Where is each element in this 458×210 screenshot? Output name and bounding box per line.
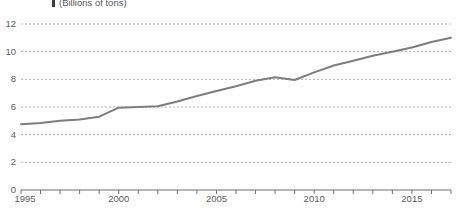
chart-plot-area bbox=[0, 0, 458, 210]
gridlines-group bbox=[21, 24, 451, 162]
y-axis-label-10: 10 bbox=[0, 47, 16, 57]
y-axis-label-12: 12 bbox=[0, 19, 16, 29]
chart-container: (Billions of tons) 024681012 19952000200… bbox=[0, 0, 458, 210]
x-axis-label-2010: 2010 bbox=[294, 194, 334, 204]
y-axis-label-2: 2 bbox=[0, 157, 16, 167]
y-axis-label-4: 4 bbox=[0, 130, 16, 140]
y-axis-label-8: 8 bbox=[0, 74, 16, 84]
x-axis-label-2015: 2015 bbox=[392, 194, 432, 204]
x-axis-label-2005: 2005 bbox=[196, 194, 236, 204]
x-axis-label-2000: 2000 bbox=[99, 194, 139, 204]
y-axis-label-6: 6 bbox=[0, 102, 16, 112]
x-axis-label-1995: 1995 bbox=[5, 194, 45, 204]
data-line-series-total bbox=[21, 38, 451, 124]
